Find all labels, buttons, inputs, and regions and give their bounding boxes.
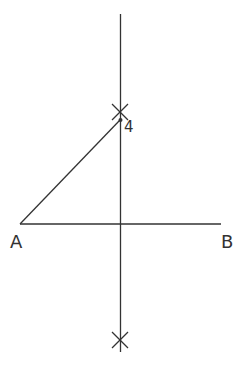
label-a: A (10, 231, 23, 252)
point-4-dot (119, 118, 123, 122)
label-b: B (221, 231, 233, 252)
construction-diagram: A B 4 (0, 0, 247, 365)
label-point-4: 4 (124, 118, 134, 136)
segment-a-4 (20, 120, 120, 224)
